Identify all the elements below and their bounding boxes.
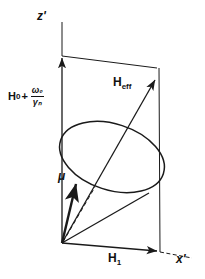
effective-field-vector bbox=[62, 80, 155, 243]
fraction-numerator: ω₀ bbox=[31, 86, 44, 96]
effective-field-label-subscript: eff bbox=[122, 82, 132, 91]
x-axis-label: x' bbox=[176, 253, 186, 265]
parallelogram-top-edge bbox=[62, 56, 157, 68]
rf-field-label: H1 bbox=[108, 252, 121, 267]
rf-field-label-subscript: 1 bbox=[117, 258, 121, 267]
rf-field-vector bbox=[62, 243, 157, 251]
precession-ellipse bbox=[50, 109, 173, 205]
diagram-canvas bbox=[0, 0, 205, 279]
longitudinal-field-label: H0+ ω₀ γₙ bbox=[8, 86, 44, 107]
z-axis-label: z' bbox=[37, 10, 46, 22]
parallelogram-right-edge bbox=[159, 68, 160, 252]
longitudinal-field-label-base: H bbox=[8, 91, 16, 102]
plus-sign: + bbox=[21, 91, 27, 102]
cone-generator-right bbox=[62, 193, 149, 243]
effective-field-label-base: H bbox=[113, 75, 122, 89]
longitudinal-field-label-subscript: 0 bbox=[16, 93, 20, 101]
magnetic-moment-label: μ bbox=[58, 170, 65, 182]
frequency-ratio-fraction: ω₀ γₙ bbox=[31, 86, 44, 107]
fraction-denominator: γₙ bbox=[32, 97, 43, 107]
magnetic-moment-vector bbox=[62, 184, 76, 243]
vector-diagram-figure: z' x' Heff H1 μ H0+ ω₀ γₙ bbox=[0, 0, 205, 279]
effective-field-label: Heff bbox=[113, 76, 131, 91]
rf-field-label-base: H bbox=[108, 251, 117, 265]
